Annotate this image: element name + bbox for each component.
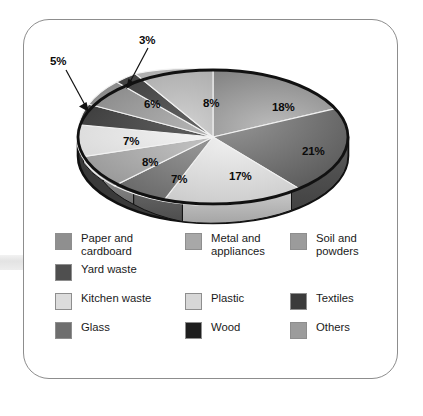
data-label-others-6: 6%: [144, 99, 160, 111]
legend-item-kitchen-waste[interactable]: Kitchen waste: [55, 292, 151, 310]
legend-item-textiles[interactable]: Textiles: [290, 292, 354, 310]
legend-label: Metal and appliances: [211, 232, 265, 257]
data-label-glass-7: 7%: [171, 174, 187, 186]
legend-item-glass[interactable]: Glass: [55, 321, 110, 339]
legend-label: Wood: [211, 321, 240, 334]
legend-label: Paper and cardboard: [81, 232, 133, 257]
legend-swatch-icon: [290, 293, 307, 310]
legend-item-plastic[interactable]: Plastic: [185, 292, 244, 310]
legend-swatch-icon: [185, 293, 202, 310]
data-label-plastic-7: 7%: [123, 136, 139, 148]
data-label-metal-8: 8%: [142, 157, 158, 169]
legend-label: Others: [316, 321, 350, 334]
pie-top-face: [77, 69, 348, 206]
legend-swatch-icon: [185, 233, 202, 250]
legend-swatch-icon: [55, 293, 72, 310]
legend-swatch-icon: [185, 322, 202, 339]
legend-label: Soil and powders: [316, 232, 359, 257]
screenshot-root: 18% 21% 17% 7% 8% 7% 5% 6% 3% 8% Paper a…: [0, 0, 423, 416]
data-label-textiles-3: 3%: [139, 35, 155, 47]
legend-label: Textiles: [316, 292, 354, 305]
legend-item-yard-waste[interactable]: Yard waste: [55, 263, 137, 281]
legend-item-soil-and-powders[interactable]: Soil and powders: [290, 232, 359, 257]
legend-item-metal-and-appliances[interactable]: Metal and appliances: [185, 232, 265, 257]
legend-item-paper-and-cardboard[interactable]: Paper and cardboard: [55, 232, 133, 257]
data-label-18: 18%: [272, 102, 294, 114]
data-label-17: 17%: [229, 171, 251, 183]
legend-swatch-icon: [55, 322, 72, 339]
data-label-21: 21%: [302, 146, 324, 158]
legend-item-others[interactable]: Others: [290, 321, 350, 339]
callout-leader-yard-waste: [66, 70, 85, 105]
legend-swatch-icon: [55, 233, 72, 250]
legend-label: Glass: [81, 321, 110, 334]
legend: Paper and cardboard Yard waste Kitchen w…: [55, 232, 385, 352]
data-label-yard-5: 5%: [50, 56, 66, 68]
legend-swatch-icon: [55, 264, 72, 281]
legend-label: Plastic: [211, 292, 244, 305]
pie-chart-svg: [23, 19, 400, 234]
legend-swatch-icon: [290, 322, 307, 339]
pie-chart: 18% 21% 17% 7% 8% 7% 5% 6% 3% 8%: [23, 19, 400, 234]
legend-swatch-icon: [290, 233, 307, 250]
legend-label: Yard waste: [81, 263, 137, 276]
legend-label: Kitchen waste: [81, 292, 151, 305]
legend-item-wood[interactable]: Wood: [185, 321, 240, 339]
data-label-wood-8: 8%: [203, 98, 219, 110]
